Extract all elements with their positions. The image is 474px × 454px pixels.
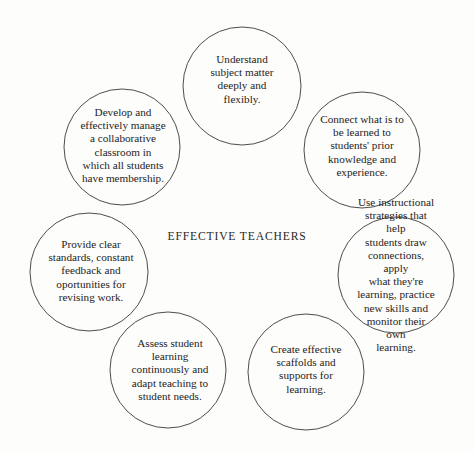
circle-understand-subject-matter [183, 27, 301, 145]
circles-layer [0, 0, 474, 454]
circle-create-scaffolds-supports [248, 314, 364, 430]
effective-teachers-diagram: Understand subject matter deeply and fle… [0, 0, 474, 454]
circle-use-instructional-strategies [338, 217, 454, 333]
circle-connect-prior-knowledge [304, 92, 420, 208]
circle-provide-clear-standards [30, 213, 148, 331]
circle-assess-student-learning [110, 312, 226, 428]
center-label: EFFECTIVE TEACHERS [167, 230, 306, 243]
circle-manage-collaborative-classroom [64, 89, 180, 205]
